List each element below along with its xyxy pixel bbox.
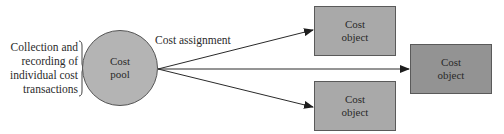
cost-object-label-line: Cost	[411, 56, 491, 69]
cost-object-label-line: object	[411, 69, 491, 82]
cost-pool-label-line: Cost	[94, 55, 146, 68]
cost-object-top: Cost object	[314, 6, 396, 56]
arrow-to-bottom-object	[158, 69, 313, 107]
cost-pool-label-line: pool	[94, 68, 146, 81]
cost-object-label: Cost object	[411, 56, 491, 82]
cost-object-label-line: object	[315, 106, 395, 119]
cost-object-label-line: object	[315, 31, 395, 44]
cost-object-label: Cost object	[315, 18, 395, 44]
collection-label-line: individual cost	[0, 68, 78, 82]
cost-object-label-line: Cost	[315, 18, 395, 31]
cost-pool-label: Cost pool	[94, 55, 146, 81]
cost-object-label-line: Cost	[315, 93, 395, 106]
cost-object-bottom: Cost object	[314, 81, 396, 131]
cost-assignment-label: Cost assignment	[155, 34, 231, 46]
cost-assignment-diagram: Collection and recording of individual c…	[0, 0, 504, 134]
cost-object-middle: Cost object	[410, 44, 492, 94]
collection-label-line: recording of	[0, 54, 78, 68]
cost-object-label: Cost object	[315, 93, 395, 119]
collection-label-line: Collection and	[0, 40, 78, 54]
collection-label-line: transactions	[0, 82, 78, 96]
collection-label: Collection and recording of individual c…	[0, 40, 78, 96]
